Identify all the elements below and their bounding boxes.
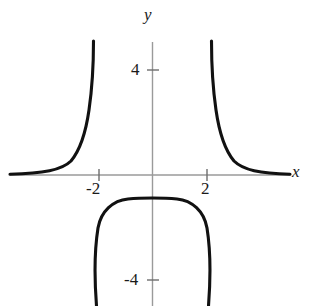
y-tick-label-neg4: -4 (124, 271, 138, 288)
x-axis-label: x (292, 163, 300, 180)
curve-right-branch (212, 41, 291, 174)
y-tick-label-pos4: 4 (131, 61, 140, 78)
plot-canvas (0, 0, 311, 306)
curve-left-branch (10, 41, 94, 174)
y-axis-label: y (144, 6, 152, 23)
x-tick-label-neg2: -2 (86, 180, 100, 197)
graph-figure: y x -2 2 4 -4 (0, 0, 311, 306)
x-tick-label-pos2: 2 (201, 180, 210, 197)
